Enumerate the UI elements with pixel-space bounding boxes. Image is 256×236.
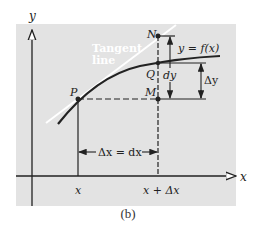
tick-x-plus-dx-label: x + Δx <box>143 184 180 197</box>
differential-diagram: y x Tangent line P Q M N y = f(x) dy Δy … <box>0 0 256 236</box>
point-m-label: M <box>144 86 157 99</box>
x-axis-label: x <box>240 170 247 184</box>
figure-caption: (b) <box>0 206 256 222</box>
point-q <box>156 61 160 65</box>
dy-label: dy <box>163 69 177 82</box>
curve-label: y = f(x) <box>177 42 219 55</box>
point-p-label: P <box>69 86 78 99</box>
tangent-label-line2: line <box>92 54 115 67</box>
tick-x-label: x <box>75 184 82 197</box>
delta-x-label: Δx = dx <box>98 146 142 159</box>
delta-y-label: Δy <box>204 74 219 87</box>
point-q-label: Q <box>146 68 155 81</box>
point-n-label: N <box>146 28 157 41</box>
y-axis-label: y <box>28 9 36 23</box>
